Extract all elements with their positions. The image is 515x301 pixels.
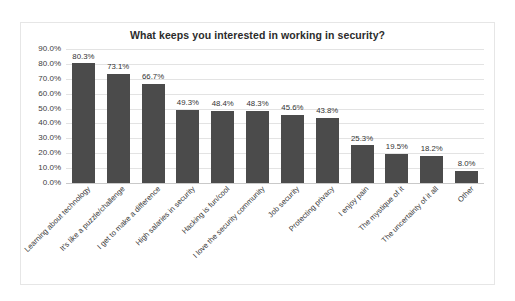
bar-value-label: 73.1% bbox=[107, 63, 129, 71]
x-axis-tick-label: High salaries in security bbox=[134, 185, 196, 247]
bar-slot: 25.3% bbox=[351, 49, 374, 183]
bar-slot: 19.5% bbox=[385, 49, 408, 183]
y-axis-tick-label: 20.0% bbox=[38, 149, 61, 157]
y-axis-tick-label: 0.0% bbox=[43, 179, 61, 187]
plot-area: 80.3%73.1%66.7%49.3%48.4%48.3%45.6%43.8%… bbox=[66, 49, 484, 183]
bar[interactable] bbox=[107, 74, 130, 183]
y-axis-tick-label: 50.0% bbox=[38, 105, 61, 113]
bar-slot: 8.0% bbox=[455, 49, 478, 183]
bar-slot: 66.7% bbox=[142, 49, 165, 183]
x-axis-tick-label: I get to make a difference bbox=[96, 185, 162, 251]
bar-value-label: 43.8% bbox=[316, 107, 338, 115]
x-axis-tick-label: It's like a puzzle/challenge bbox=[59, 185, 127, 253]
x-axis-tick-label: I enjoy pain bbox=[338, 185, 371, 218]
y-axis: 90.0%80.0%70.0%60.0%50.0%40.0%30.0%20.0%… bbox=[21, 49, 64, 183]
y-axis-tick-label: 30.0% bbox=[38, 134, 61, 142]
bar-slot: 48.4% bbox=[211, 49, 234, 183]
chart-container: What keeps you interested in working in … bbox=[20, 22, 495, 285]
bar-slot: 73.1% bbox=[107, 49, 130, 183]
bar[interactable] bbox=[420, 156, 443, 183]
bar[interactable] bbox=[142, 84, 165, 183]
bar-value-label: 49.3% bbox=[177, 99, 199, 107]
bar[interactable] bbox=[176, 110, 199, 183]
x-axis-tick-label: I love the security community bbox=[191, 185, 266, 260]
bar[interactable] bbox=[281, 115, 304, 183]
bar-slot: 45.6% bbox=[281, 49, 304, 183]
bar-value-label: 8.0% bbox=[458, 160, 476, 168]
bar[interactable] bbox=[246, 111, 269, 183]
x-axis-category-labels: Learning about technologyIt's like a puz… bbox=[66, 185, 484, 281]
bar[interactable] bbox=[211, 111, 234, 183]
bar-series: 80.3%73.1%66.7%49.3%48.4%48.3%45.6%43.8%… bbox=[66, 49, 484, 183]
y-axis-tick-label: 40.0% bbox=[38, 119, 61, 127]
bar[interactable] bbox=[351, 145, 374, 183]
bar-value-label: 25.3% bbox=[351, 135, 373, 143]
bar-value-label: 19.5% bbox=[386, 143, 408, 151]
bar-value-label: 80.3% bbox=[72, 53, 94, 61]
y-axis-tick-label: 70.0% bbox=[38, 75, 61, 83]
x-axis-tick-label: Learning about technology bbox=[23, 185, 92, 254]
y-axis-tick-label: 60.0% bbox=[38, 90, 61, 98]
bar[interactable] bbox=[72, 63, 95, 183]
bar[interactable] bbox=[385, 154, 408, 183]
bar-value-label: 45.6% bbox=[281, 104, 303, 112]
bar-slot: 18.2% bbox=[420, 49, 443, 183]
bar[interactable] bbox=[316, 118, 339, 183]
bar-value-label: 48.4% bbox=[212, 100, 234, 108]
chart-title: What keeps you interested in working in … bbox=[21, 29, 494, 41]
x-axis-tick-label: Job security bbox=[267, 185, 301, 219]
bar-value-label: 66.7% bbox=[142, 73, 164, 81]
bar-slot: 48.3% bbox=[246, 49, 269, 183]
y-axis-tick-label: 10.0% bbox=[38, 164, 61, 172]
x-axis-tick-label: Other bbox=[456, 185, 475, 204]
bar-slot: 49.3% bbox=[176, 49, 199, 183]
axis-baseline bbox=[66, 183, 484, 184]
y-axis-tick-label: 90.0% bbox=[38, 45, 61, 53]
bar-slot: 43.8% bbox=[316, 49, 339, 183]
bar-value-label: 48.3% bbox=[247, 100, 269, 108]
bar-slot: 80.3% bbox=[72, 49, 95, 183]
bar[interactable] bbox=[455, 171, 478, 183]
y-axis-tick-label: 80.0% bbox=[38, 60, 61, 68]
bar-value-label: 18.2% bbox=[421, 145, 443, 153]
